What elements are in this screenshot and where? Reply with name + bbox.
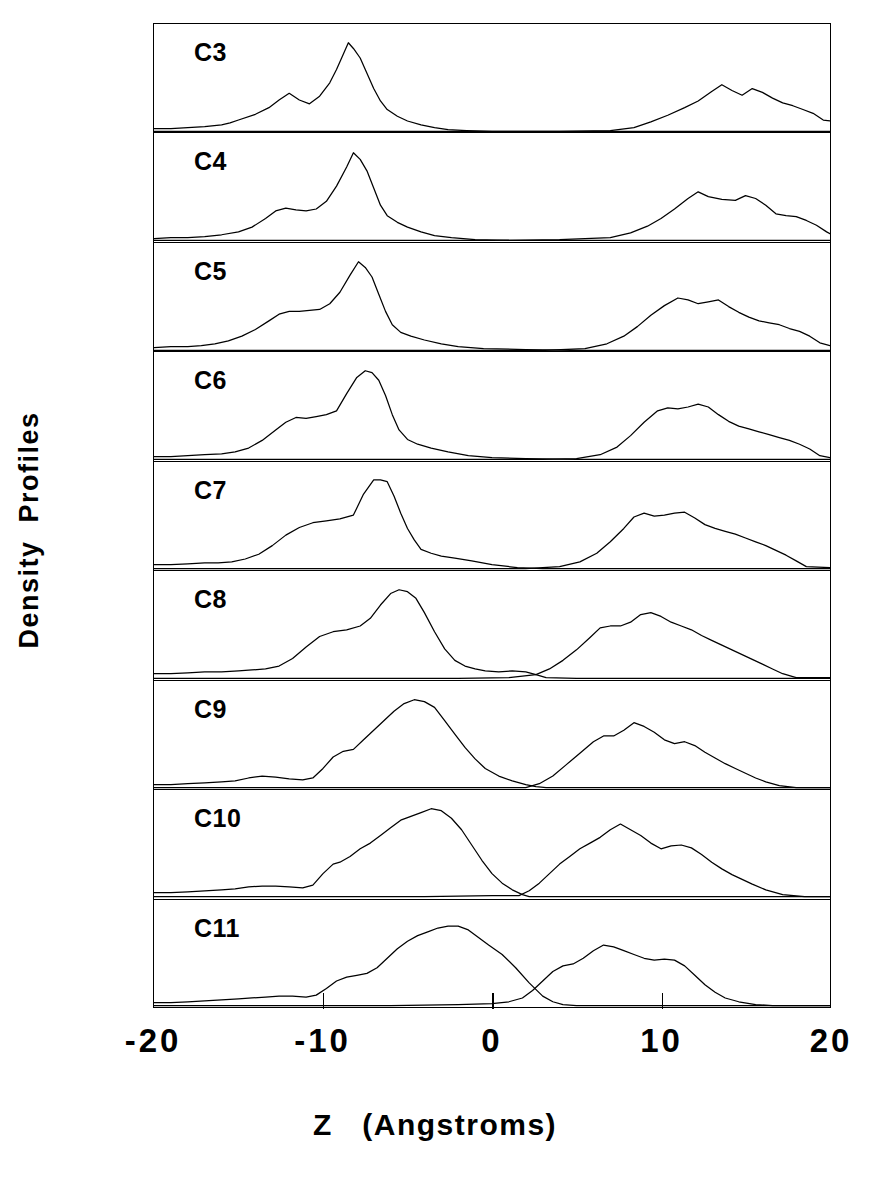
panel-stack: C3C4C5C6C7C8C9C10C11 xyxy=(153,23,831,1008)
panel-label-c4: C4 xyxy=(194,147,227,176)
y-axis-label: Density Profiles xyxy=(6,270,52,790)
x-tick-0 xyxy=(492,993,494,1009)
panel-label-c9: C9 xyxy=(194,695,227,724)
panel-label-c11: C11 xyxy=(194,914,240,943)
density-panel-c3: C3 xyxy=(153,23,831,132)
curve-c10-lower xyxy=(154,809,830,897)
x-tick-label-0: 0 xyxy=(481,1022,502,1060)
curve-c4-upper xyxy=(154,192,830,241)
curve-c3-lower xyxy=(154,43,830,132)
curve-c7-upper xyxy=(154,512,830,568)
panel-label-c3: C3 xyxy=(194,38,227,67)
x-tick-10 xyxy=(662,993,664,1009)
curves-c10 xyxy=(154,790,830,898)
curve-c3-upper xyxy=(154,85,830,132)
density-panel-c10: C10 xyxy=(153,789,831,898)
x-tick-label--10: -10 xyxy=(294,1022,351,1060)
curve-c9-upper xyxy=(154,722,830,787)
curve-c4-lower xyxy=(154,153,830,241)
panel-label-c8: C8 xyxy=(194,585,227,614)
density-profiles-figure: Density Profiles C3C4C5C6C7C8C9C10C11 -2… xyxy=(0,0,870,1184)
density-panel-c9: C9 xyxy=(153,680,831,789)
curves-c4 xyxy=(154,133,830,241)
density-panel-c5: C5 xyxy=(153,242,831,351)
x-axis-tick-labels: -20-1001020 xyxy=(0,1022,870,1068)
x-axis-ticks xyxy=(153,1008,831,1009)
density-panel-c7: C7 xyxy=(153,461,831,570)
density-panel-c11: C11 xyxy=(153,899,831,1008)
panel-label-c7: C7 xyxy=(194,476,227,505)
x-tick-label-20: 20 xyxy=(810,1022,853,1060)
curve-c10-upper xyxy=(154,824,830,897)
curves-c5 xyxy=(154,243,830,351)
curve-c6-upper xyxy=(154,404,830,459)
x-tick-label-10: 10 xyxy=(640,1022,683,1060)
curve-c7-lower xyxy=(154,480,830,569)
x-tick-label--20: -20 xyxy=(125,1022,182,1060)
curve-c5-upper xyxy=(154,298,830,350)
curves-c8 xyxy=(154,571,830,679)
density-panel-c6: C6 xyxy=(153,351,831,460)
density-panel-c4: C4 xyxy=(153,132,831,241)
curves-c7 xyxy=(154,462,830,570)
y-axis-label-text: Density Profiles xyxy=(14,411,45,648)
curves-c3 xyxy=(154,24,830,132)
curve-c6-lower xyxy=(154,371,830,460)
x-tick--10 xyxy=(323,993,325,1009)
density-panel-c8: C8 xyxy=(153,570,831,679)
panel-label-c5: C5 xyxy=(194,257,227,286)
curve-c9-lower xyxy=(154,699,830,787)
curve-c8-lower xyxy=(154,590,830,679)
curves-c11 xyxy=(154,900,830,1007)
curves-c9 xyxy=(154,681,830,789)
curve-c8-upper xyxy=(154,613,830,679)
x-axis-label: Z (Angstroms) xyxy=(0,1108,870,1142)
curves-c6 xyxy=(154,352,830,460)
panel-label-c6: C6 xyxy=(194,366,227,395)
panel-label-c10: C10 xyxy=(194,804,241,833)
